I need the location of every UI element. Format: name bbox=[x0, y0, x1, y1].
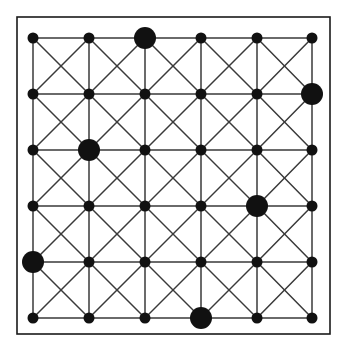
node-standard[interactable] bbox=[196, 201, 207, 212]
node-highlighted[interactable] bbox=[301, 83, 323, 105]
node-standard[interactable] bbox=[28, 33, 39, 44]
node-highlighted[interactable] bbox=[78, 139, 100, 161]
node-highlighted[interactable] bbox=[22, 251, 44, 273]
node-standard[interactable] bbox=[84, 257, 95, 268]
node-standard[interactable] bbox=[28, 145, 39, 156]
node-standard[interactable] bbox=[84, 201, 95, 212]
node-standard[interactable] bbox=[140, 201, 151, 212]
figure-root bbox=[0, 0, 347, 349]
node-standard[interactable] bbox=[196, 89, 207, 100]
node-standard[interactable] bbox=[252, 257, 263, 268]
node-standard[interactable] bbox=[140, 89, 151, 100]
node-standard[interactable] bbox=[28, 89, 39, 100]
node-standard[interactable] bbox=[140, 313, 151, 324]
node-standard[interactable] bbox=[84, 33, 95, 44]
figure-background bbox=[0, 0, 347, 349]
node-standard[interactable] bbox=[84, 313, 95, 324]
node-highlighted[interactable] bbox=[134, 27, 156, 49]
node-highlighted[interactable] bbox=[190, 307, 212, 329]
node-standard[interactable] bbox=[307, 257, 318, 268]
node-standard[interactable] bbox=[84, 89, 95, 100]
node-standard[interactable] bbox=[28, 201, 39, 212]
node-standard[interactable] bbox=[252, 33, 263, 44]
node-standard[interactable] bbox=[307, 201, 318, 212]
node-standard[interactable] bbox=[196, 145, 207, 156]
node-standard[interactable] bbox=[307, 313, 318, 324]
node-standard[interactable] bbox=[252, 89, 263, 100]
node-standard[interactable] bbox=[28, 313, 39, 324]
node-standard[interactable] bbox=[252, 145, 263, 156]
node-standard[interactable] bbox=[307, 33, 318, 44]
lattice-diagram bbox=[0, 0, 347, 349]
node-standard[interactable] bbox=[140, 257, 151, 268]
node-standard[interactable] bbox=[307, 145, 318, 156]
node-standard[interactable] bbox=[196, 33, 207, 44]
node-standard[interactable] bbox=[140, 145, 151, 156]
node-standard[interactable] bbox=[196, 257, 207, 268]
node-highlighted[interactable] bbox=[246, 195, 268, 217]
node-standard[interactable] bbox=[252, 313, 263, 324]
